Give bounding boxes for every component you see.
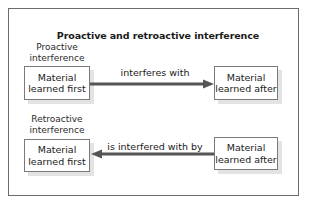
diagram-title: Proactive and retroactive interference	[0, 30, 316, 41]
box-line-1: Material	[215, 72, 276, 84]
box-line-2: learned after	[215, 154, 276, 166]
material-learned-first-box: Material learned first	[24, 66, 90, 100]
arrow-left-icon	[90, 148, 215, 160]
arrow-right-icon	[90, 78, 215, 90]
arrow-label-interferes-with: interferes with	[100, 67, 210, 78]
material-learned-first-box: Material learned first	[24, 139, 90, 172]
label-line-1: Proactive	[14, 42, 100, 53]
box-line-1: Material	[215, 142, 276, 154]
material-learned-after-box: Material learned after	[214, 66, 278, 100]
label-line-2: interference	[14, 53, 100, 64]
label-line-1: Retroactive	[14, 114, 100, 125]
proactive-interference-label: Proactive interference	[14, 42, 100, 64]
box-line-2: learned first	[28, 83, 86, 95]
box-line-1: Material	[28, 144, 86, 156]
label-line-2: interference	[14, 125, 100, 136]
box-line-1: Material	[28, 72, 86, 84]
box-line-2: learned after	[215, 83, 276, 95]
retroactive-interference-label: Retroactive interference	[14, 114, 100, 136]
material-learned-after-box: Material learned after	[214, 137, 278, 170]
box-line-2: learned first	[28, 156, 86, 168]
